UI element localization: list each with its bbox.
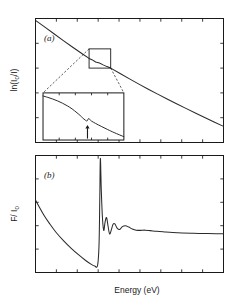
ylabel-b-sub: 0 [13, 206, 20, 210]
panel-b-label: (b) [44, 170, 55, 180]
ylabel-b-main: F/ I [9, 210, 19, 222]
panel-a-label: (a) [44, 33, 55, 43]
panel-a-ylabel: ln(I0/I) [9, 68, 20, 91]
ylabel-a-tail: /I) [9, 68, 19, 76]
panel-a-inset [43, 93, 124, 140]
figure-container: (a) (b) ln(I0/I) F/ I0 [0, 0, 240, 308]
svg-text:ln(I0/I): ln(I0/I) [9, 68, 20, 91]
ylabel-a-main: ln(I [9, 80, 19, 92]
xafs-two-panel-figure: (a) (b) ln(I0/I) F/ I0 [0, 0, 240, 308]
x-axis-label: Energy (eV) [114, 285, 160, 295]
